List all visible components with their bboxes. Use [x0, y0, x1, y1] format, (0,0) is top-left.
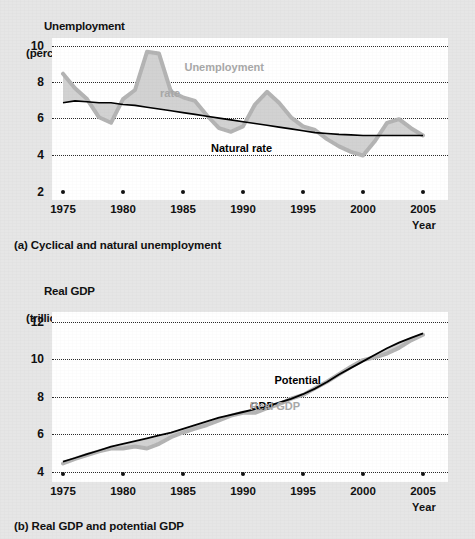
panel-b-xdot-1990 — [241, 472, 245, 476]
panel-b-xdot-1975 — [61, 472, 65, 476]
panel-a-xtick-2000: 2000 — [350, 203, 376, 215]
panel-a-plot-area: Unemployment rate Natural rate — [52, 38, 448, 200]
panel-a-unemployment-rate-label: Unemployment rate — [160, 48, 264, 126]
panel-a-xtick-1975: 1975 — [50, 203, 76, 215]
panel-b-x-axis-label: Year — [412, 501, 436, 513]
panel-a-xtick-1995: 1995 — [290, 203, 316, 215]
panel-a-x-axis-label: Year — [412, 219, 436, 231]
panel-b-real-gdp-label: Real GDP — [250, 400, 300, 413]
panel-b-potential-gdp-line — [63, 333, 423, 461]
panel-b-xtick-1980: 1980 — [110, 485, 136, 497]
panel-a-natural-rate-label: Natural rate — [211, 142, 272, 155]
panel-cyclical-unemployment: Unemployment (percentage of labor force)… — [0, 0, 475, 268]
panel-a-xdot-2005 — [421, 190, 425, 194]
panel-a-xtick-1980: 1980 — [110, 203, 136, 215]
panel-b-xtick-1975: 1975 — [50, 485, 76, 497]
panel-b-ytick-12: 12 — [18, 316, 44, 328]
panel-b-ytick-10: 10 — [18, 353, 44, 365]
panel-a-ytick-2: 2 — [18, 186, 44, 198]
panel-a-xtick-2005: 2005 — [410, 203, 436, 215]
panel-a-ytick-4: 4 — [18, 149, 44, 161]
panel-b-xdot-1980 — [121, 472, 125, 476]
panel-b-xtick-2000: 2000 — [350, 485, 376, 497]
panel-b-xdot-1995 — [301, 472, 305, 476]
panel-b-xtick-1990: 1990 — [230, 485, 256, 497]
panel-a-xdot-1990 — [241, 190, 245, 194]
panel-b-xtick-1995: 1995 — [290, 485, 316, 497]
panel-a-xdot-1985 — [181, 190, 185, 194]
panel-a-ytick-10: 10 — [18, 40, 44, 52]
panel-a-unemployment-rate-label-line2: rate — [160, 87, 264, 100]
panel-b-xdot-2005 — [421, 472, 425, 476]
panel-a-xdot-2000 — [361, 190, 365, 194]
panel-b-xdot-1985 — [181, 472, 185, 476]
panel-b-real-gdp-line — [63, 335, 423, 464]
panel-b-xdot-2000 — [361, 472, 365, 476]
panel-a-y-axis-title-line1: Unemployment — [44, 20, 125, 32]
panel-a-unemployment-rate-label-line1: Unemployment — [184, 61, 263, 73]
panel-a-ytick-6: 6 — [18, 112, 44, 124]
panel-a-xtick-1985: 1985 — [170, 203, 196, 215]
panel-b-ytick-6: 6 — [18, 428, 44, 440]
figure-page: Unemployment (percentage of labor force)… — [0, 0, 475, 539]
panel-b-plot-area: Potential GDP Real GDP — [52, 312, 448, 482]
panel-a-caption: (a) Cyclical and natural unemployment — [14, 239, 221, 251]
panel-b-caption: (b) Real GDP and potential GDP — [14, 520, 184, 532]
panel-a-xdot-1980 — [121, 190, 125, 194]
panel-real-gdp: Real GDP (trillions of 1997 dollars) Pot… — [0, 268, 475, 539]
panel-b-potential-gdp-label-line1: Potential — [274, 374, 320, 386]
panel-a-xdot-1975 — [61, 190, 65, 194]
panel-b-ytick-8: 8 — [18, 391, 44, 403]
panel-a-ytick-8: 8 — [18, 76, 44, 88]
panel-a-xdot-1995 — [301, 190, 305, 194]
panel-b-y-axis-title-line1: Real GDP — [44, 285, 95, 297]
panel-b-xtick-2005: 2005 — [410, 485, 436, 497]
panel-b-ytick-4: 4 — [18, 466, 44, 478]
panel-a-xtick-1990: 1990 — [230, 203, 256, 215]
panel-b-output-gap-band — [63, 333, 423, 464]
panel-b-xtick-1985: 1985 — [170, 485, 196, 497]
